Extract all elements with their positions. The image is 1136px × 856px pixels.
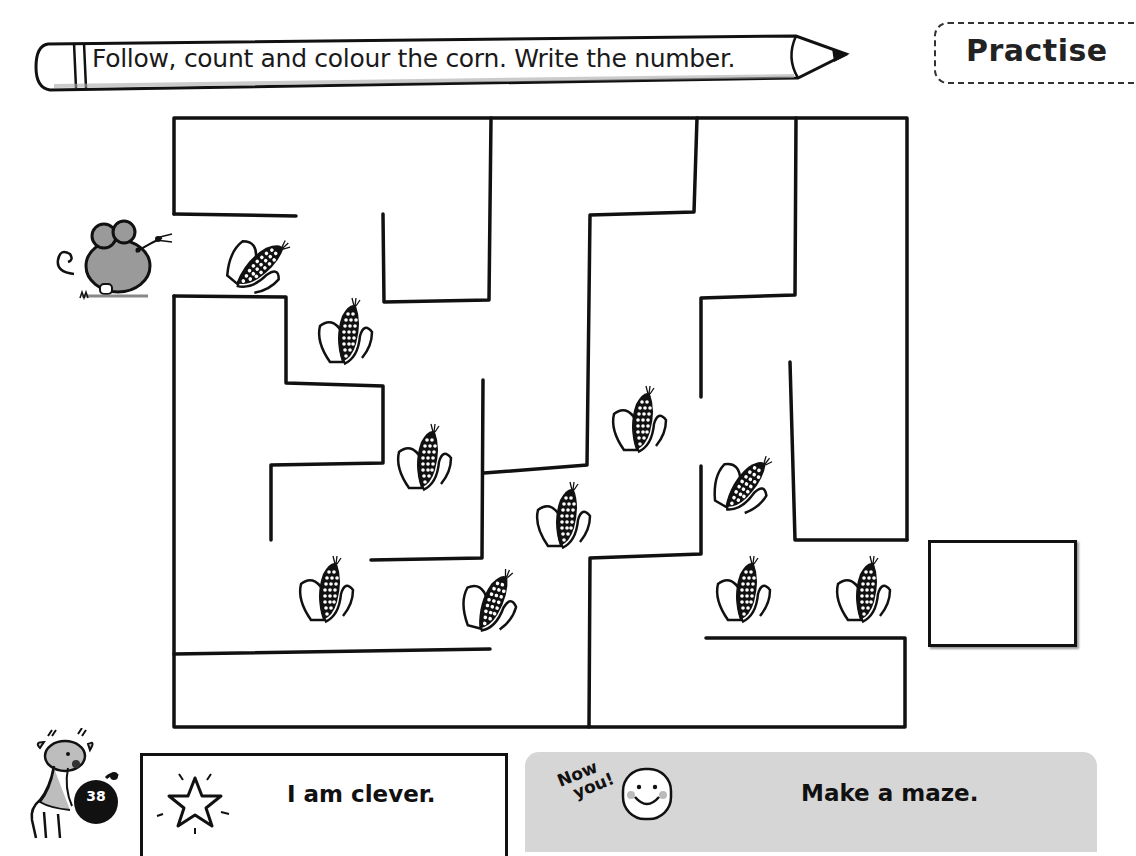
corn-icon (530, 476, 596, 556)
deer-mascot: 38 (10, 728, 130, 842)
corn-icon (606, 380, 672, 460)
corn-icon (710, 550, 776, 630)
answer-box[interactable] (928, 540, 1077, 647)
corn-icon (293, 550, 359, 630)
mouse-icon (52, 214, 174, 304)
page-number: 38 (74, 776, 118, 816)
maze-task-text: Make a maze. (801, 780, 978, 806)
corn-icon (830, 550, 896, 630)
self-assessment-box: I am clever. (140, 753, 508, 856)
instruction-text: Follow, count and colour the corn. Write… (92, 44, 735, 73)
corn-icon (225, 222, 291, 302)
maze-wall (174, 649, 490, 654)
maze-wall (174, 214, 296, 216)
instruction-pencil-banner: Follow, count and colour the corn. Write… (34, 30, 850, 92)
section-tag-label: Practise (966, 33, 1108, 68)
corn-icon (391, 418, 457, 498)
corn-icon (710, 442, 776, 522)
maze-wall (701, 118, 796, 397)
section-tag: Practise (934, 22, 1136, 84)
maze-wall (790, 362, 907, 540)
corn-icon (457, 560, 523, 640)
star-icon[interactable] (155, 768, 235, 834)
maze-wall (383, 118, 491, 302)
corn-icon (312, 292, 378, 372)
now-you-label: Now you! (555, 754, 617, 805)
now-you-panel: Now you! Make a maze. (525, 752, 1097, 852)
maze-wall (589, 466, 701, 727)
self-assessment-text: I am clever. (287, 781, 436, 807)
smiley-face-icon (621, 767, 673, 821)
